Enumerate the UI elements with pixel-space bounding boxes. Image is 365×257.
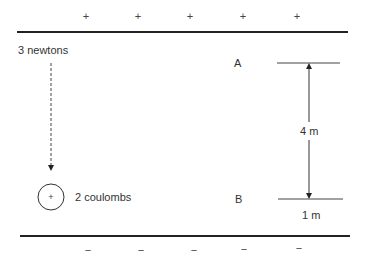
plus-sign: + <box>294 10 300 22</box>
minus-sign: − <box>191 244 197 256</box>
plus-sign: + <box>240 10 246 22</box>
charge-label: 2 coulombs <box>75 191 131 203</box>
charge-plus-icon: + <box>48 191 53 203</box>
point-a-label: A <box>234 57 241 69</box>
plus-sign: + <box>135 10 141 22</box>
plus-sign: + <box>83 10 89 22</box>
minus-sign: − <box>85 244 91 256</box>
minus-sign: − <box>296 242 302 254</box>
distance-label: 4 m <box>300 125 318 137</box>
width-label: 1 m <box>302 209 320 221</box>
minus-sign: − <box>241 243 247 255</box>
minus-sign: − <box>138 244 144 256</box>
plus-sign: + <box>187 10 193 22</box>
point-b-label: B <box>235 193 242 205</box>
force-label: 3 newtons <box>18 44 68 56</box>
